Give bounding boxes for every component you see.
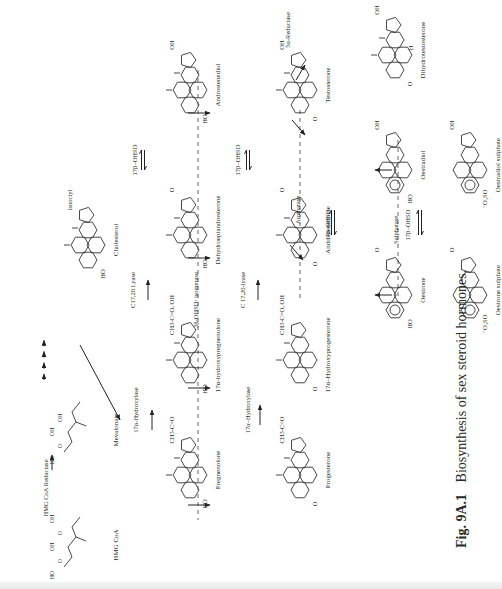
- enzyme-label-17a-hydroxylase-2: 17α–Hydroxylase: [244, 387, 251, 433]
- compound-17a-hydroxyprogesterone: OCH3-C=O, OH17α–Hydroxyprogesterone: [276, 295, 332, 393]
- functional-group-label: HO: [49, 570, 55, 579]
- compound-oestradiol-sulphate: ⁻O₃SOOHOestradiol sulphate: [448, 120, 502, 208]
- enzyme-label-c1720-lyase-2: C 17,20-lyase: [239, 272, 246, 308]
- compound-name-label: Oestrone sulphate: [494, 265, 502, 315]
- caption-label: Fig. 9A.1: [454, 494, 469, 548]
- ring-a-substituent-label: HO: [201, 499, 208, 509]
- c17-substituent-label: CH3-C=O: [278, 416, 285, 443]
- ring-A-icon: [291, 482, 309, 498]
- enzyme-label-17b-ohsd-2: 17β–OHSD: [234, 144, 241, 175]
- compound-name-label: Dihydrotestosterone: [419, 22, 427, 79]
- enzyme-label-17b-ohsd-4: 17β–OHSD: [404, 209, 411, 240]
- functional-group-label: O: [57, 443, 63, 448]
- enzyme-label-aromatase: Aromatase: [294, 196, 301, 224]
- ring-D-icon: [387, 17, 402, 32]
- aromatic-ring-icon: [390, 305, 400, 315]
- ring-A-icon: [291, 367, 309, 383]
- ring-A-icon: [181, 482, 199, 498]
- c17-substituent-label: O: [448, 247, 455, 252]
- ring-B-icon: [283, 227, 301, 243]
- carbon-chain-icon: [64, 402, 80, 452]
- ring-B-icon: [453, 162, 471, 178]
- compound-pregnenolone: HOCH3-C=OPregnenolone: [166, 416, 222, 509]
- ring-B-icon: [71, 237, 89, 253]
- ring-A-icon: [79, 252, 97, 268]
- ring-B-icon: [173, 82, 191, 98]
- ring-B2-icon: [469, 162, 487, 178]
- functional-group-label: O: [57, 558, 63, 563]
- hydrogen-label: H: [407, 45, 414, 50]
- compound-dehydroepiandrosterone: HOODehydroepiandrosterone: [166, 187, 222, 268]
- ring-a-substituent-label: O: [406, 81, 413, 86]
- reaction-arrows: [44, 65, 424, 505]
- methyl-bond-icon: [76, 537, 86, 541]
- ring-a-substituent-label: O: [311, 386, 318, 391]
- ring-A-icon: [181, 97, 199, 113]
- ring-A-icon: [386, 302, 404, 318]
- c17-substituent-label: CH3-C=O, OH: [278, 295, 285, 335]
- ring-C-icon: [291, 452, 309, 468]
- ring-a-substituent-label: O: [311, 501, 318, 506]
- ring-a-substituent-label: HO: [201, 114, 208, 124]
- c17-substituent-label: O: [373, 247, 380, 252]
- ring-a-substituent-label: ⁻O₃SO: [481, 314, 488, 333]
- ring-B2-icon: [394, 162, 412, 178]
- ring-a-substituent-label: HO: [406, 319, 413, 329]
- ring-A-icon: [181, 242, 199, 258]
- ring-B2-icon: [299, 227, 317, 243]
- arrow-icon: [292, 120, 305, 135]
- functional-group-label: HO: [49, 455, 55, 464]
- compound-name-label: Cholesterol: [112, 224, 120, 256]
- c17-substituent-label: OH: [448, 120, 455, 130]
- ring-B-icon: [283, 82, 301, 98]
- ring-B-icon: [173, 467, 191, 483]
- ring-B-icon: [283, 467, 301, 483]
- ring-a-substituent-label: ⁻O₃SO: [481, 189, 488, 208]
- compound-name-label: Oestradiol: [419, 150, 427, 179]
- ring-C-icon: [386, 32, 404, 48]
- ring-B-icon: [283, 352, 301, 368]
- ring-a-substituent-label: HO: [99, 269, 106, 279]
- functional-group-label: OH: [49, 542, 55, 551]
- compound-progesterone: OCH3-C=OProgesterone: [276, 416, 332, 506]
- ring-B2-icon: [87, 237, 105, 253]
- compound-name-label: Oestradiol sulphate: [494, 138, 502, 192]
- c17-substituent-label: CH3-C=O: [168, 416, 175, 443]
- ring-B-icon: [378, 47, 396, 63]
- c17-substituent-label: O: [168, 187, 175, 192]
- ring-a-substituent-label: O: [311, 261, 318, 266]
- ring-a-substituent-label: HO: [201, 259, 208, 269]
- compound-hmg-coa: HOOOHOOHHMG CoA: [49, 514, 120, 579]
- carbon-chain-icon: [64, 517, 80, 567]
- ring-D-icon: [292, 437, 307, 452]
- compound-androstenediol: HOOHAndrostenediol: [166, 40, 222, 124]
- arrow-icon: [80, 345, 120, 420]
- functional-group-label: OH: [49, 427, 55, 436]
- c17-substituent-label: OH: [168, 40, 175, 50]
- c17-substituent-label: isooctyl: [66, 190, 73, 211]
- enzyme-label-17b-ohsd-1: 17β–OHSD: [131, 144, 138, 175]
- aromatic-ring-icon: [465, 180, 475, 190]
- compound-name-label: Dehydroepiandrosterone: [214, 195, 222, 264]
- aromatic-ring-icon: [390, 180, 400, 190]
- ring-C-icon: [181, 212, 199, 228]
- steroid-pathway-diagram: HOOOHOOHHMG CoAHOOOHOHMevalonateHOisooct…: [0, 0, 502, 589]
- enzyme-label-17b-ohsd-3: 17β–OHSD: [324, 209, 331, 240]
- functional-group-label: OH: [57, 413, 63, 422]
- page-edge-shadow: [0, 582, 502, 589]
- compound-name-label: 17α-hydroxypregnenolone: [214, 318, 222, 392]
- compound-cholesterol: HOisooctylCholesterol: [64, 190, 120, 279]
- c17-substituent-label: O: [278, 187, 285, 192]
- enzyme-labels: HMG CoA Reductase17α-HydroxylaseC17,20 L…: [42, 12, 411, 516]
- ring-B2-icon: [394, 287, 412, 303]
- ring-a-substituent-label: HO: [406, 194, 413, 204]
- compound-name-label: Progesterone: [324, 452, 332, 489]
- compound-name-label: Testosterone: [324, 67, 332, 102]
- ring-B2-icon: [299, 467, 317, 483]
- ring-D-icon: [182, 52, 197, 67]
- ring-A-icon: [386, 177, 404, 193]
- enzyme-label-hmg-coa-reductase: HMG CoA Reductase: [42, 459, 49, 516]
- ring-D-icon: [182, 197, 197, 212]
- ring-C-icon: [181, 67, 199, 83]
- ring-A-icon: [386, 62, 404, 78]
